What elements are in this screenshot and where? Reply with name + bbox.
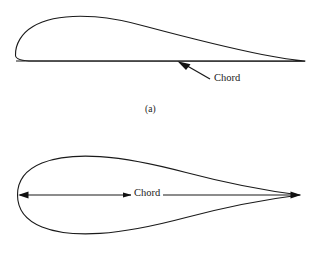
arrowhead-right-icon-b <box>291 192 302 199</box>
figure-canvas <box>0 0 322 277</box>
leader-arrowhead-icon-a <box>178 61 191 70</box>
airfoil-figure: Chord (a) Chord <box>0 0 322 277</box>
chord-label-b: Chord <box>131 188 163 199</box>
panel-caption-a: (a) <box>145 105 156 115</box>
airfoil-panel-a <box>15 16 305 79</box>
arrowhead-left-icon-b <box>18 192 29 199</box>
chord-label-a: Chord <box>214 73 240 84</box>
airfoil-outline-a <box>15 16 305 61</box>
